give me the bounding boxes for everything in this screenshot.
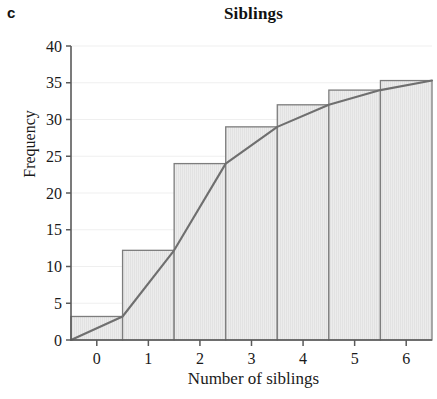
figure-panel: c Siblings Frequency Number of siblings … — [0, 0, 437, 399]
y-tick-label: 25 — [46, 148, 62, 165]
y-tick-label: 10 — [46, 258, 62, 275]
y-tick-label: 5 — [54, 295, 62, 312]
x-tick-label: 2 — [196, 350, 204, 367]
x-tick-label: 4 — [299, 350, 307, 367]
chart-plot-area: 0510152025303540 0123456 — [0, 0, 437, 399]
x-tick-label: 5 — [351, 350, 359, 367]
y-tick-label: 15 — [46, 221, 62, 238]
x-tick-label: 3 — [248, 350, 256, 367]
y-tick-label: 0 — [54, 332, 62, 349]
x-tick-label: 1 — [144, 350, 152, 367]
x-tick-label: 6 — [402, 350, 410, 367]
y-tick-label: 40 — [46, 38, 62, 55]
y-tick-label: 35 — [46, 74, 62, 91]
x-tick-label: 0 — [93, 350, 101, 367]
x-axis-ticks: 0123456 — [93, 340, 410, 367]
y-tick-label: 20 — [46, 185, 62, 202]
y-axis-ticks: 0510152025303540 — [46, 38, 71, 349]
bar — [329, 90, 381, 340]
bar — [174, 164, 226, 340]
bar — [123, 250, 175, 340]
y-tick-label: 30 — [46, 111, 62, 128]
bar — [380, 81, 432, 340]
bar — [277, 105, 329, 340]
